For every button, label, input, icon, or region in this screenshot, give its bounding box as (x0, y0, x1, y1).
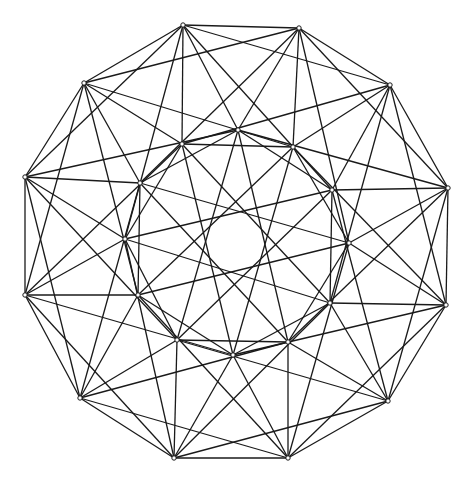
inner-vertex (231, 353, 235, 357)
graph-edge (293, 147, 446, 305)
graph-edge (446, 188, 448, 305)
graph-edge (138, 243, 349, 295)
inner-vertex (328, 301, 332, 305)
graph-edge (84, 25, 183, 83)
outer-vertex (172, 456, 176, 460)
graph-edge (332, 85, 390, 190)
graph-edge (299, 28, 349, 243)
edges-group (25, 25, 448, 458)
inner-vertex (138, 181, 142, 185)
outer-vertex (78, 396, 82, 400)
graph-edge (84, 83, 182, 144)
inner-vertex (330, 188, 334, 192)
graph-edge (25, 177, 140, 183)
graph-edge (25, 144, 182, 295)
inner-vertex (291, 145, 295, 149)
outer-vertex (386, 399, 390, 403)
graph-edge (233, 303, 330, 355)
graph-edge (349, 243, 446, 305)
graph-edge (332, 190, 388, 401)
graph-edge (80, 340, 177, 398)
outer-vertex (388, 83, 392, 87)
graph-edge (288, 305, 446, 458)
outer-vertex (446, 186, 450, 190)
outer-vertex (181, 23, 185, 27)
inner-vertex (136, 293, 140, 297)
graph-edge (182, 25, 183, 144)
graph-diagram (0, 0, 472, 484)
graph-edge (177, 190, 332, 340)
outer-vertex (23, 293, 27, 297)
graph-edge (288, 243, 349, 458)
graph-edge (182, 144, 293, 147)
graph-edge (177, 340, 288, 342)
graph-edge (174, 340, 177, 458)
graph-edge (25, 295, 174, 458)
inner-vertex (236, 128, 240, 132)
graph-edge (80, 342, 288, 398)
outer-vertex (82, 81, 86, 85)
graph-edge (299, 28, 448, 188)
graph-edge (125, 239, 330, 303)
outer-vertex (297, 26, 301, 30)
graph-edge (332, 188, 448, 190)
graph-edge (183, 25, 299, 28)
graph-edge (233, 305, 446, 355)
graph-edge (390, 85, 446, 305)
graph-edge (138, 147, 293, 295)
graph-edge (84, 83, 293, 147)
graph-edge (140, 28, 299, 183)
inner-vertex (175, 338, 179, 342)
graph-edge (25, 83, 84, 295)
graph-edge (138, 183, 140, 295)
graph-edge (288, 342, 388, 401)
outer-vertex (23, 175, 27, 179)
graph-edge (293, 28, 299, 147)
graph-edge (125, 239, 177, 340)
graph-edge (25, 25, 183, 177)
graph-edge (238, 130, 448, 188)
graph-edge (80, 295, 138, 398)
inner-vertex (180, 142, 184, 146)
graph-edge (174, 303, 330, 458)
graph-edge (80, 398, 288, 458)
inner-vertex (123, 237, 127, 241)
outer-vertex (286, 456, 290, 460)
graph-edge (25, 295, 233, 355)
graph-edge (183, 25, 390, 85)
graph-edge (238, 130, 332, 190)
graph-edge (390, 85, 448, 188)
graph-edge (140, 183, 288, 342)
graph-edge (330, 303, 446, 305)
graph-edge (25, 177, 177, 340)
graph-edge (293, 147, 349, 243)
graph-edge (177, 340, 388, 401)
graph-edge (25, 83, 84, 177)
graph-edge (288, 188, 448, 342)
graph-svg (0, 0, 472, 484)
inner-vertex (347, 241, 351, 245)
graph-edge (84, 28, 299, 83)
graph-edge (330, 190, 332, 303)
outer-vertex (444, 303, 448, 307)
graph-edge (388, 188, 448, 401)
graph-edge (125, 190, 332, 239)
graph-edge (84, 83, 138, 295)
graph-edge (140, 183, 349, 243)
inner-vertex (286, 340, 290, 344)
